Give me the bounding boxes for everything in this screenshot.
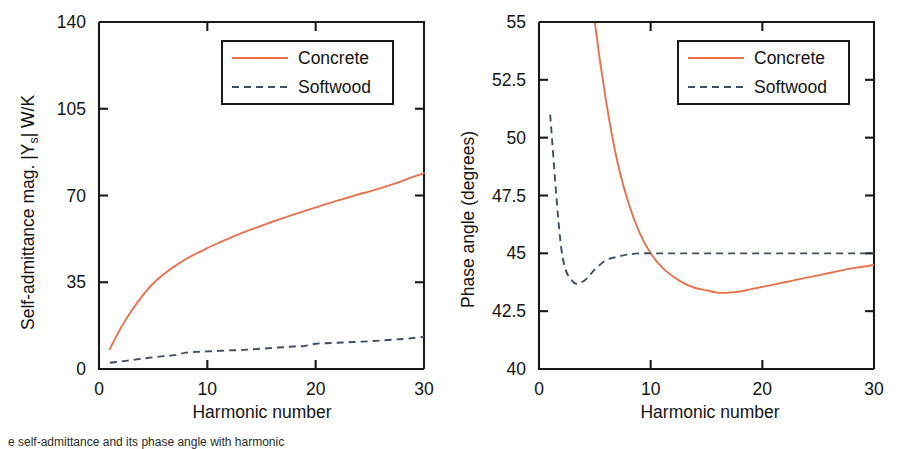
line-softwood-phase [550,115,874,284]
y-axis-title-right: Phase angle (degrees) [458,131,478,308]
y-tick-label: 42.5 [492,301,526,321]
y-tick-label: 50 [507,128,527,148]
x-axis-title-left: Harmonic number [192,402,331,422]
y-ticks-left [99,109,424,283]
line-concrete-magnitude [110,173,424,349]
y-tick-label: 47.5 [492,186,526,206]
x-tick-labels-left: 0102030 [94,379,434,399]
data-series-left [110,173,424,363]
legend-right[interactable]: Concrete Softwood [678,41,849,104]
y-tick-label: 70 [67,186,87,206]
caption-text: e self-admittance and its phase angle wi… [8,437,284,449]
figure-two-panel-charts: Self-admittance mag. |Ys| W/K 0357010514… [0,0,904,449]
legend-label-softwood: Softwood [754,77,827,97]
y-tick-label: 55 [507,12,526,32]
x-tick-label: 20 [306,379,326,399]
y-tick-label: 0 [76,359,86,379]
legend-label-softwood: Softwood [298,77,371,97]
legend-label-concrete: Concrete [754,48,825,68]
x-tick-label: 10 [641,379,661,399]
chart-panel-phase-angle: Phase angle (degrees) 4042.54547.55052.5… [452,0,904,449]
y-axis-title-left: Self-admittance mag. |Ys| W/K [18,95,41,330]
y-tick-label: 40 [507,359,527,379]
caption-strip: e self-admittance and its phase angle wi… [0,437,904,449]
legend-left[interactable]: Concrete Softwood [222,41,393,104]
legend-label-concrete: Concrete [298,48,369,68]
x-axis-title-right: Harmonic number [640,402,779,422]
y-tick-labels-left: 03570105140 [57,12,86,379]
y-tick-label: 45 [507,243,526,263]
y-tick-label: 140 [57,12,86,32]
x-tick-label: 30 [414,379,434,399]
x-tick-label: 20 [753,379,773,399]
y-ticks-right [539,80,874,311]
x-tick-label: 0 [534,379,544,399]
chart-panel-self-admittance: Self-admittance mag. |Ys| W/K 0357010514… [0,0,452,449]
y-tick-labels-right: 4042.54547.55052.555 [492,12,526,379]
y-tick-label: 105 [57,99,86,119]
phase-angle-plot: Phase angle (degrees) 4042.54547.55052.5… [452,0,904,449]
x-tick-labels-right: 0102030 [534,379,884,399]
line-softwood-magnitude [110,337,424,363]
y-tick-label: 35 [67,272,86,292]
x-tick-label: 10 [198,379,218,399]
x-tick-label: 30 [864,379,884,399]
x-tick-label: 0 [94,379,104,399]
y-tick-label: 52.5 [492,70,526,90]
self-admittance-plot: Self-admittance mag. |Ys| W/K 0357010514… [0,0,452,449]
